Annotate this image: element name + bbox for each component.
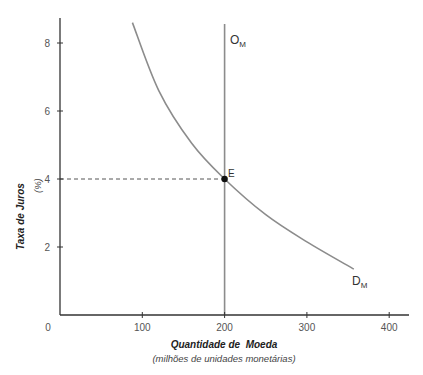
- plot-area: [60, 23, 354, 315]
- x-tick-label: 100: [134, 322, 151, 333]
- y-axis-title: Taxa de Juros: [15, 183, 26, 250]
- chart-svg: 01002003004002468 Taxa de Juros (%) Quan…: [0, 0, 423, 375]
- supply-label-sub: M: [239, 40, 246, 49]
- x-tick-label: 300: [299, 322, 316, 333]
- x-tick-label: 400: [381, 322, 398, 333]
- demand-label-sub: M: [361, 281, 368, 290]
- axes: [60, 18, 409, 315]
- equilibrium-point: [221, 176, 227, 182]
- y-tick-label: 2: [44, 242, 50, 253]
- supply-curve-label: OM: [230, 33, 246, 49]
- x-tick-label: 200: [216, 322, 233, 333]
- x-axis-title: Quantidade de Moeda: [171, 339, 278, 350]
- equilibrium-label: E: [228, 168, 235, 179]
- y-tick-label: 6: [44, 106, 50, 117]
- x-tick-label: 0: [45, 322, 51, 333]
- ticks: 01002003004002468: [44, 38, 398, 333]
- supply-label-main: O: [230, 33, 239, 47]
- y-axis-subtitle: (%): [32, 178, 43, 193]
- y-tick-label: 8: [44, 38, 50, 49]
- demand-curve-label: DM: [352, 274, 368, 290]
- demand-label-main: D: [352, 274, 361, 288]
- x-axis-subtitle: (milhões de unidades monetárias): [152, 353, 295, 364]
- money-demand-curve: [132, 23, 353, 270]
- y-tick-label: 4: [44, 174, 50, 185]
